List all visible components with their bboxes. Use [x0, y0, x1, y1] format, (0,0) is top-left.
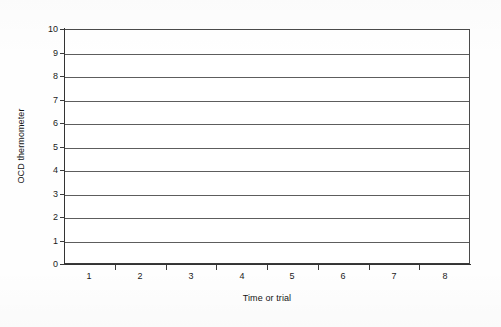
gridline-y-8: [65, 77, 469, 78]
y-tick-label-10: 10: [38, 25, 58, 34]
plot-area: [64, 29, 470, 264]
gridline-y-3: [65, 195, 469, 196]
x-tick-label-6: 6: [331, 271, 355, 281]
y-tick-5: [60, 147, 65, 148]
y-tick-label-8: 8: [38, 72, 58, 81]
x-tick-boundary-3: [216, 265, 217, 270]
y-tick-8: [60, 76, 65, 77]
y-tick-9: [60, 53, 65, 54]
y-tick-label-9: 9: [38, 49, 58, 58]
y-tick-6: [60, 123, 65, 124]
y-tick-label-4: 4: [38, 166, 58, 175]
y-tick-0: [60, 264, 65, 265]
gridline-y-2: [65, 218, 469, 219]
y-tick-3: [60, 194, 65, 195]
x-tick-label-7: 7: [382, 271, 406, 281]
y-tick-label-5: 5: [38, 143, 58, 152]
y-tick-label-0: 0: [38, 260, 58, 269]
gridline-y-4: [65, 171, 469, 172]
x-tick-boundary-1: [115, 265, 116, 270]
x-tick-label-2: 2: [128, 271, 152, 281]
y-tick-4: [60, 170, 65, 171]
x-tick-boundary-6: [369, 265, 370, 270]
gridline-y-9: [65, 54, 469, 55]
x-axis-title: Time or trial: [64, 293, 470, 303]
x-tick-label-5: 5: [280, 271, 304, 281]
x-tick-label-1: 1: [77, 271, 101, 281]
y-tick-label-1: 1: [38, 237, 58, 246]
y-tick-label-7: 7: [38, 96, 58, 105]
gridline-y-1: [65, 242, 469, 243]
x-tick-label-8: 8: [433, 271, 457, 281]
x-tick-label-4: 4: [230, 271, 254, 281]
chart-screenshot: 109876543210 12345678 OCD thermometer Ti…: [0, 0, 501, 327]
y-tick-10: [60, 29, 65, 30]
y-tick-label-2: 2: [38, 213, 58, 222]
y-tick-label-6: 6: [38, 119, 58, 128]
x-tick-boundary-4: [267, 265, 268, 270]
y-axis-title: OCD thermometer: [16, 108, 26, 183]
y-tick-2: [60, 217, 65, 218]
x-tick-boundary-5: [318, 265, 319, 270]
x-tick-boundary-2: [166, 265, 167, 270]
x-tick-boundary-7: [419, 265, 420, 270]
y-axis-tick-labels: 109876543210: [38, 0, 58, 327]
gridline-y-5: [65, 148, 469, 149]
y-tick-label-3: 3: [38, 190, 58, 199]
x-tick-label-3: 3: [179, 271, 203, 281]
gridline-y-6: [65, 124, 469, 125]
y-tick-1: [60, 241, 65, 242]
y-tick-7: [60, 100, 65, 101]
gridline-y-7: [65, 101, 469, 102]
